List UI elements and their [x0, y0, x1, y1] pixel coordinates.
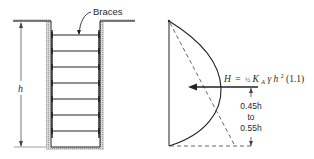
figure-canvas: Braces h H = ½ K A γ h 2 (1: [0, 0, 314, 159]
height-dimension: h: [14, 22, 46, 147]
force-arrowhead-icon: [188, 84, 197, 91]
braces-label: Braces: [93, 6, 123, 17]
triangular-pressure-dashed: [170, 23, 235, 146]
location-label-line2: to: [247, 112, 254, 122]
dimension-arrow-up-icon: [19, 22, 23, 28]
brace-4: [52, 80, 99, 86]
soil-wall-left: [46, 21, 50, 148]
brace-6: [52, 112, 99, 118]
location-label-line3: 0.55h: [240, 123, 262, 133]
brace-2: [52, 48, 99, 54]
braces-leader-arrow: [77, 30, 81, 35]
resultant-location-dimension: 0.45h to 0.55h: [240, 88, 262, 146]
top-point: [168, 20, 170, 22]
pressure-envelope-curve: [169, 21, 221, 146]
dimension-arrow-down-icon: [19, 141, 23, 147]
brace-3: [52, 64, 99, 70]
location-arrow-up-icon: [249, 88, 253, 93]
braces: [52, 32, 99, 134]
brace-1: [52, 32, 99, 38]
location-label-line1: 0.45h: [240, 101, 262, 111]
pressure-diagram: H = ½ K A γ h 2 (1.1) 0.45h to 0.55h: [168, 20, 304, 146]
excavation-section: Braces h: [13, 6, 135, 150]
brace-7: [52, 128, 99, 134]
height-label: h: [18, 83, 23, 94]
force-equation: H = ½ K A γ h 2 (1.1): [223, 70, 304, 86]
brace-5: [52, 96, 99, 102]
soil-wall-right: [100, 21, 104, 148]
braces-leader-line: [79, 12, 91, 34]
location-arrow-down-icon: [249, 141, 253, 146]
excavation-outline: [13, 21, 135, 147]
